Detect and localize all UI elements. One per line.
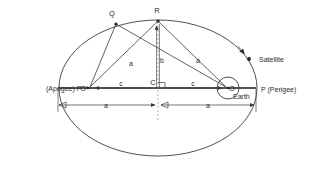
segment-r-to-left-focus — [90, 21, 158, 87]
label-apogee: (Apogee) P' — [46, 85, 83, 93]
label-point-q: Q — [109, 9, 115, 18]
label-segment-c-left: c — [119, 80, 123, 87]
segment-q-to-left-focus — [90, 24, 116, 87]
label-segment-q-o-a: a — [129, 60, 133, 67]
label-satellite: Satellite — [259, 56, 284, 63]
orbit-diagram: Q R O' C O (Apogee) P' P (Perigee) Satel… — [0, 0, 312, 173]
label-segment-r-c-b: b — [160, 57, 164, 64]
label-earth: Earth — [233, 93, 250, 100]
label-segment-r-o-a: a — [196, 57, 200, 64]
label-dimension-a-right: a — [206, 102, 210, 109]
label-point-r: R — [154, 6, 160, 15]
label-center: C — [150, 78, 156, 87]
orbit-diagram-canvas: Q R O' C O (Apogee) P' P (Perigee) Satel… — [0, 0, 312, 173]
point-r-marker — [156, 19, 159, 22]
point-q-marker — [114, 22, 117, 25]
label-dimension-a-left: a — [104, 102, 108, 109]
satellite-marker — [247, 57, 251, 61]
label-perigee: P (Perigee) — [261, 86, 296, 94]
label-right-focus: O — [229, 84, 235, 93]
label-segment-c-right: c — [191, 80, 195, 87]
